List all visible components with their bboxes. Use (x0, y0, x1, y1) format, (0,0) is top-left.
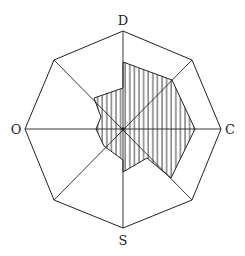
axis-label-left: O (11, 122, 22, 137)
axis-label-top: D (118, 13, 128, 28)
hatched-profile-area (94, 62, 195, 178)
axis-label-bottom: S (119, 233, 128, 248)
center-point (121, 127, 125, 131)
axis-label-right: C (225, 122, 235, 137)
radar-diagram: D C S O (0, 0, 245, 256)
